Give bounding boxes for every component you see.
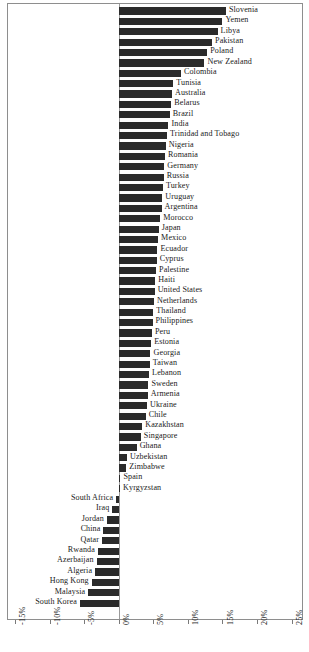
bar xyxy=(119,361,150,368)
bar-row: Turkey xyxy=(8,183,302,193)
bar-category-label: Netherlands xyxy=(157,296,197,306)
bar xyxy=(119,236,158,243)
bar xyxy=(119,433,141,440)
axis-tick-label: 25% xyxy=(295,609,304,625)
bar-row: Belarus xyxy=(8,99,302,109)
bar-category-label: Singapore xyxy=(144,431,178,441)
bar xyxy=(116,496,118,503)
bar-row: Netherlands xyxy=(8,297,302,307)
bar xyxy=(119,215,161,222)
bar-category-label: Malaysia xyxy=(55,587,85,597)
bar xyxy=(119,39,212,46)
bar xyxy=(107,516,119,523)
bar-category-label: Jordan xyxy=(82,514,104,524)
bar-category-label: Georgia xyxy=(154,348,181,358)
bar-category-label: China xyxy=(81,524,101,534)
bar-row: Kyrgyzstan xyxy=(8,484,302,494)
bar-category-label: Colombia xyxy=(184,67,217,77)
bar xyxy=(102,537,119,544)
bar xyxy=(119,18,223,25)
bar xyxy=(88,589,118,596)
bar xyxy=(119,381,149,388)
bar-category-label: Haiti xyxy=(158,275,175,285)
bar xyxy=(119,184,163,191)
bar-row: Rwanda xyxy=(8,546,302,556)
bar-category-label: Argentina xyxy=(165,202,198,212)
axis-tick-mark xyxy=(50,620,51,624)
bar-row: Zimbabwe xyxy=(8,463,302,473)
bar-category-label: Romania xyxy=(168,150,198,160)
bar xyxy=(119,329,152,336)
bar xyxy=(119,90,172,97)
bar xyxy=(119,205,162,212)
bar-row: China xyxy=(8,525,302,535)
bar-category-label: Algeria xyxy=(67,566,92,576)
bar xyxy=(119,226,159,233)
bar-row: Yemen xyxy=(8,16,302,26)
bar-row: Cyprus xyxy=(8,255,302,265)
bar-category-label: New Zealand xyxy=(207,57,251,67)
bar xyxy=(119,475,121,482)
bar-row: Poland xyxy=(8,48,302,58)
bar-row: India xyxy=(8,120,302,130)
bar xyxy=(119,80,174,87)
bar xyxy=(119,277,156,284)
bar-row: Tunisia xyxy=(8,79,302,89)
bar-row: South Africa xyxy=(8,494,302,504)
bar xyxy=(119,111,170,118)
bar-row: Ecuador xyxy=(8,245,302,255)
bar-category-label: Trinidad and Tobago xyxy=(170,129,239,139)
bar xyxy=(119,28,218,35)
bar-category-label: Pakistan xyxy=(215,36,243,46)
bar-category-label: Thailand xyxy=(156,306,186,316)
bar-category-label: Yemen xyxy=(225,15,248,25)
bar xyxy=(119,454,127,461)
bar xyxy=(119,70,181,77)
bar xyxy=(95,568,119,575)
bar-category-label: Lebanon xyxy=(152,368,181,378)
bar-category-label: Mexico xyxy=(161,233,186,243)
bar xyxy=(119,413,146,420)
bar-row: New Zealand xyxy=(8,58,302,68)
bar-category-label: Hong Kong xyxy=(50,576,89,586)
bar xyxy=(119,257,157,264)
bar-category-label: Azerbaijan xyxy=(57,555,94,565)
axis-tick-mark xyxy=(292,620,293,624)
bar xyxy=(119,142,166,149)
bar xyxy=(119,163,165,170)
bar-category-label: Morocco xyxy=(163,213,193,223)
bar xyxy=(119,59,205,66)
bar-category-label: Ukraine xyxy=(150,400,177,410)
axis-tick-mark xyxy=(119,620,120,624)
bar-category-label: Turkey xyxy=(166,181,190,191)
bar-row: Trinidad and Tobago xyxy=(8,131,302,141)
bar-row: Jordan xyxy=(8,515,302,525)
bar-category-label: Zimbabwe xyxy=(129,462,164,472)
bar xyxy=(119,350,151,357)
bar-category-label: Australia xyxy=(175,88,206,98)
bar xyxy=(97,558,119,565)
bar xyxy=(92,579,119,586)
bar xyxy=(119,371,149,378)
bar-category-label: Spain xyxy=(123,472,142,482)
bar-row: Haiti xyxy=(8,276,302,286)
bar xyxy=(119,319,153,326)
bar-chart: SloveniaYemenLibyaPakistanPolandNew Zeal… xyxy=(0,0,309,652)
bar-category-label: Kazakhstan xyxy=(145,420,184,430)
x-axis: -15%-10%-5%0%5%10%15%20%25% xyxy=(0,620,309,652)
bar-category-label: Sweden xyxy=(151,379,177,389)
bar xyxy=(119,392,148,399)
bar-category-label: Belarus xyxy=(174,98,199,108)
axis-tick-mark xyxy=(84,620,85,624)
bar-row: Morocco xyxy=(8,214,302,224)
bar-category-label: Nigeria xyxy=(169,140,194,150)
bar xyxy=(112,506,118,513)
bar-category-label: South Africa xyxy=(71,493,113,503)
bar xyxy=(80,600,119,607)
bar-row: Germany xyxy=(8,162,302,172)
bar xyxy=(119,132,167,139)
bar xyxy=(119,101,172,108)
bar-category-label: Qatar xyxy=(81,535,99,545)
bar xyxy=(119,49,208,56)
bar-category-label: Russia xyxy=(167,171,189,181)
